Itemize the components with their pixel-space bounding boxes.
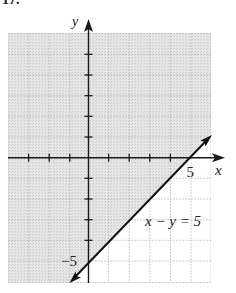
- y-tick-label-neg5: −5: [61, 253, 77, 269]
- x-tick-label-5: 5: [187, 164, 195, 180]
- x-axis-label: x: [214, 162, 222, 178]
- problem-number: 17.: [2, 0, 20, 7]
- inequality-graph: 17.: [0, 0, 236, 293]
- y-axis-label: y: [70, 14, 79, 29]
- line-equation-label: x − y = 5: [144, 213, 202, 229]
